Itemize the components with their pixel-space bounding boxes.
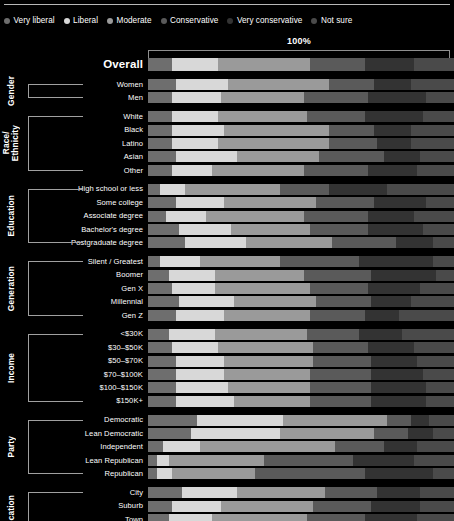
bar-segment[interactable] (148, 415, 197, 426)
stacked-bar[interactable] (148, 270, 454, 281)
chart-row[interactable]: $30–$50K (0, 342, 454, 353)
bar-segment[interactable] (365, 58, 414, 71)
bar-segment[interactable] (148, 487, 182, 498)
bar-segment[interactable] (157, 468, 172, 479)
chart-row[interactable]: Silent / Greatest (0, 256, 454, 267)
bar-segment[interactable] (179, 296, 234, 307)
bar-segment[interactable] (218, 111, 307, 122)
stacked-bar[interactable] (148, 455, 454, 466)
chart-row[interactable]: City (0, 487, 454, 498)
bar-segment[interactable] (374, 197, 426, 208)
stacked-bar[interactable] (148, 184, 454, 195)
chart-row[interactable]: <$30K (0, 329, 454, 340)
chart-row[interactable]: Town (0, 514, 454, 521)
bar-segment[interactable] (172, 165, 212, 176)
chart-row[interactable]: Democratic (0, 415, 454, 426)
stacked-bar[interactable] (148, 501, 454, 512)
bar-segment[interactable] (319, 151, 383, 162)
chart-row[interactable]: $50–$70K (0, 356, 454, 367)
stacked-bar[interactable] (148, 382, 454, 393)
bar-segment[interactable] (176, 382, 228, 393)
stacked-bar[interactable] (148, 415, 454, 426)
bar-segment[interactable] (304, 270, 371, 281)
bar-segment[interactable] (310, 310, 365, 321)
bar-segment[interactable] (325, 487, 377, 498)
bar-segment[interactable] (169, 270, 215, 281)
bar-segment[interactable] (368, 283, 420, 294)
bar-segment[interactable] (329, 184, 387, 195)
legend-item[interactable]: Not sure (311, 16, 352, 26)
bar-segment[interactable] (310, 283, 368, 294)
bar-segment[interactable] (436, 270, 454, 281)
bar-segment[interactable] (280, 184, 329, 195)
chart-row[interactable]: Women (0, 79, 454, 90)
bar-segment[interactable] (399, 310, 454, 321)
bar-segment[interactable] (411, 415, 429, 426)
stacked-bar[interactable] (148, 256, 454, 267)
bar-segment[interactable] (148, 369, 176, 380)
bar-segment[interactable] (176, 197, 225, 208)
bar-segment[interactable] (234, 396, 311, 407)
bar-segment[interactable] (417, 165, 454, 176)
bar-segment[interactable] (371, 356, 417, 367)
bar-segment[interactable] (414, 58, 454, 71)
bar-segment[interactable] (335, 441, 384, 452)
bar-segment[interactable] (359, 329, 402, 340)
bar-segment[interactable] (365, 310, 399, 321)
bar-segment[interactable] (200, 441, 335, 452)
bar-segment[interactable] (185, 184, 280, 195)
bar-segment[interactable] (420, 487, 454, 498)
bar-segment[interactable] (182, 487, 237, 498)
bar-segment[interactable] (237, 487, 326, 498)
bar-segment[interactable] (218, 342, 313, 353)
chart-row[interactable]: Latino (0, 138, 454, 149)
bar-segment[interactable] (310, 58, 365, 71)
bar-segment[interactable] (304, 211, 368, 222)
bar-segment[interactable] (426, 396, 454, 407)
bar-segment[interactable] (148, 310, 176, 321)
bar-segment[interactable] (212, 514, 307, 521)
bar-segment[interactable] (423, 224, 454, 235)
bar-segment[interactable] (148, 356, 176, 367)
bar-segment[interactable] (166, 211, 206, 222)
stacked-bar[interactable] (148, 151, 454, 162)
chart-row[interactable]: Men (0, 92, 454, 103)
stacked-bar[interactable] (148, 369, 454, 380)
bar-segment[interactable] (316, 296, 371, 307)
bar-segment[interactable] (228, 382, 311, 393)
bar-segment[interactable] (433, 237, 454, 248)
bar-segment[interactable] (423, 369, 454, 380)
bar-segment[interactable] (368, 224, 423, 235)
bar-segment[interactable] (218, 58, 310, 71)
bar-segment[interactable] (387, 184, 454, 195)
bar-segment[interactable] (417, 514, 454, 521)
bar-segment[interactable] (148, 382, 176, 393)
legend-item[interactable]: Very liberal (4, 16, 55, 26)
bar-segment[interactable] (172, 111, 218, 122)
stacked-bar[interactable] (148, 396, 454, 407)
bar-segment[interactable] (157, 455, 169, 466)
bar-segment[interactable] (176, 310, 225, 321)
bar-segment[interactable] (176, 79, 228, 90)
bar-segment[interactable] (148, 514, 169, 521)
bar-segment[interactable] (169, 514, 212, 521)
bar-segment[interactable] (417, 441, 454, 452)
bar-segment[interactable] (148, 79, 176, 90)
bar-segment[interactable] (313, 342, 368, 353)
bar-segment[interactable] (310, 369, 371, 380)
bar-segment[interactable] (172, 283, 215, 294)
bar-segment[interactable] (148, 138, 172, 149)
bar-segment[interactable] (148, 468, 157, 479)
chart-row[interactable]: Overall (0, 58, 454, 71)
bar-segment[interactable] (148, 151, 176, 162)
bar-segment[interactable] (148, 296, 179, 307)
chart-row[interactable]: Some college (0, 197, 454, 208)
bar-segment[interactable] (329, 138, 378, 149)
bar-segment[interactable] (148, 224, 179, 235)
bar-segment[interactable] (169, 455, 264, 466)
stacked-bar[interactable] (148, 58, 454, 71)
bar-segment[interactable] (353, 455, 414, 466)
stacked-bar[interactable] (148, 356, 454, 367)
bar-segment[interactable] (423, 111, 454, 122)
bar-segment[interactable] (148, 58, 172, 71)
